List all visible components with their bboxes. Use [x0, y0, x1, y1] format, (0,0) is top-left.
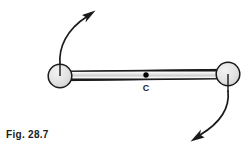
right-sphere: [216, 62, 240, 92]
center-of-mass-dot: [143, 72, 148, 77]
center-of-mass-label: C: [143, 83, 150, 93]
upper-left-motion-arrow: [60, 11, 96, 65]
figure-caption: Fig. 28.7: [6, 129, 49, 140]
lower-right-motion-arrow: [191, 91, 229, 142]
figure-container: C Fig. 28.7: [0, 0, 250, 153]
left-sphere: [48, 64, 72, 88]
